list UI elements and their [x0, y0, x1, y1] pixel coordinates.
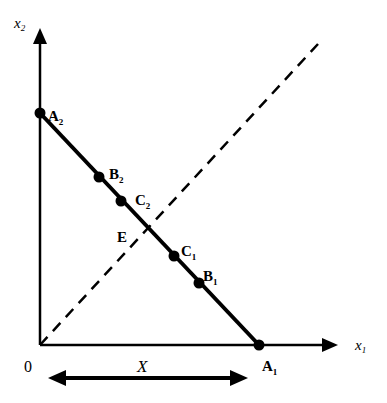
label-B1: B1 [203, 268, 218, 287]
x-axis-arrowhead-icon [322, 338, 338, 352]
point-A1 [254, 340, 265, 351]
label-A1: A1 [262, 358, 278, 377]
diagonal-dashed-line [40, 44, 318, 345]
width-double-arrow [48, 370, 248, 386]
width-label: X [136, 357, 148, 376]
label-C1: C1 [181, 243, 197, 262]
y-axis-label: x2 [13, 15, 26, 33]
x-axis-label: x1 [354, 337, 366, 355]
arrow-right-icon [230, 370, 248, 386]
label-B2: B2 [109, 166, 124, 185]
diagram-canvas: x2 x1 0 A2 B2 C2 E C1 B1 A1 X [0, 0, 387, 403]
label-C2: C2 [135, 192, 151, 211]
x-axis [40, 338, 338, 352]
point-C2 [116, 196, 127, 207]
label-E: E [117, 229, 127, 245]
y-axis [33, 28, 47, 345]
point-B2 [94, 172, 105, 183]
y-axis-arrowhead-icon [33, 28, 47, 44]
arrow-left-icon [48, 370, 66, 386]
point-C1 [169, 251, 180, 262]
point-A2 [35, 108, 46, 119]
origin-label: 0 [24, 358, 32, 375]
